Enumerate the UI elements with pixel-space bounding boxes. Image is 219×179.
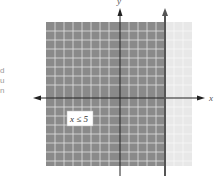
boundary-arrow-icon [162,8,168,16]
y-axis-arrow-icon [118,8,123,16]
unshaded-region [165,22,192,166]
x-axis-right-arrow-icon [197,96,205,101]
y-axis-label: y [116,0,121,6]
inequality-graph: x y x ≤ 5 [0,0,219,179]
x-axis-label: x [208,93,213,103]
inequality-label: x ≤ 5 [69,114,88,124]
x-axis-left-arrow-icon [33,96,41,101]
